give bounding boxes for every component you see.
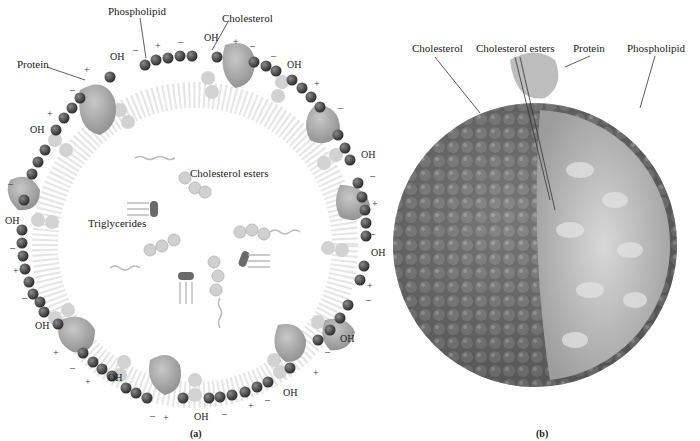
minus-charge: – xyxy=(8,178,13,189)
plus-charge: + xyxy=(13,265,19,276)
caption-a: (a) xyxy=(190,428,202,439)
minus-charge: – xyxy=(370,170,375,181)
label-protein: Protein xyxy=(17,58,49,70)
plus-charge: + xyxy=(85,376,91,387)
minus-charge: – xyxy=(10,242,15,253)
protein-3d xyxy=(510,53,558,99)
minus-charge: – xyxy=(178,36,183,47)
cut-away-core xyxy=(537,110,670,380)
hydroxyl-label: OH xyxy=(35,320,49,331)
minus-charge: – xyxy=(271,50,276,61)
label-cholesterol: Cholesterol xyxy=(222,12,273,24)
lipoprotein-3d-illustration xyxy=(390,0,700,441)
plus-charge: + xyxy=(233,36,239,47)
hydroxyl-label: OH xyxy=(287,59,301,70)
minus-charge: – xyxy=(338,102,343,113)
label-cholesterol-esters: Cholesterol esters xyxy=(190,167,269,179)
plus-charge: + xyxy=(47,108,53,119)
plus-charge: + xyxy=(367,280,373,291)
minus-charge: – xyxy=(325,346,330,357)
core-cholesterol-esters xyxy=(110,157,300,329)
minus-charge: – xyxy=(70,84,75,95)
label-phospholipid: Phospholipid xyxy=(108,5,166,17)
hydroxyl-label: OH xyxy=(361,149,375,160)
label-protein-b: Protein xyxy=(573,42,605,54)
panel-a-cross-section: Phospholipid Cholesterol Protein Cholest… xyxy=(0,0,400,441)
label-cholesterol-b: Cholesterol xyxy=(412,42,463,54)
minus-charge: – xyxy=(133,44,138,55)
plus-charge: + xyxy=(313,367,319,378)
minus-charge: – xyxy=(150,410,155,421)
hydroxyl-label: OH xyxy=(30,124,44,135)
plus-charge: + xyxy=(53,347,59,358)
plus-charge: + xyxy=(84,64,90,75)
label-cholesterol-esters-b: Cholesterol esters xyxy=(476,42,555,54)
panel-b-3d-model: Cholesterol Cholesterol esters Protein P… xyxy=(390,0,700,441)
plus-charge: + xyxy=(163,412,169,423)
minus-charge: – xyxy=(265,394,270,405)
label-triglycerides: Triglycerides xyxy=(88,217,146,229)
plus-charge: + xyxy=(314,78,320,89)
caption-b: (b) xyxy=(536,428,548,439)
minus-charge: – xyxy=(370,228,375,239)
plus-charge: + xyxy=(248,400,254,411)
hydroxyl-label: OH xyxy=(283,387,297,398)
hydroxyl-label: OH xyxy=(108,372,122,383)
minus-charge: – xyxy=(222,408,227,419)
hydroxyl-label: OH xyxy=(204,32,218,43)
minus-charge: – xyxy=(366,294,371,305)
hydroxyl-label: OH xyxy=(110,51,124,62)
hydroxyl-label: OH xyxy=(371,247,385,258)
minus-charge: – xyxy=(22,292,27,303)
hydroxyl-label: OH xyxy=(340,333,354,344)
minus-charge: – xyxy=(70,362,75,373)
hydroxyl-label: OH xyxy=(5,215,19,226)
plus-charge: + xyxy=(372,198,378,209)
hydroxyl-label: OH xyxy=(194,411,208,422)
lipoprotein-cross-section-illustration xyxy=(0,0,400,441)
minus-charge: – xyxy=(250,40,255,51)
label-phospholipid-b: Phospholipid xyxy=(627,42,685,54)
plus-charge: + xyxy=(155,40,161,51)
